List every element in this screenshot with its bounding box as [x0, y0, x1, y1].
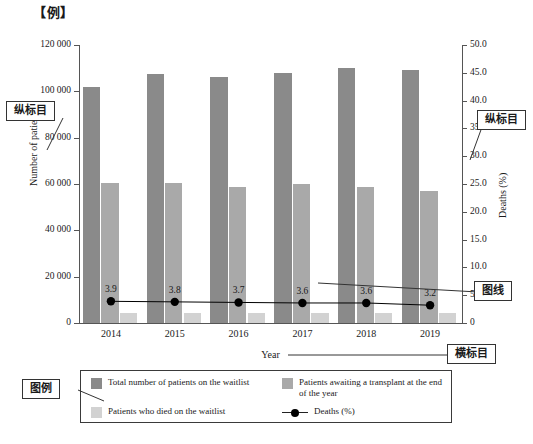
- x-axis-tick-label: 2015: [143, 328, 207, 339]
- legend-item-total: Total number of patients on the waitlist: [91, 377, 282, 399]
- annotation-y-axis-left: 纵标目: [6, 101, 55, 121]
- deaths-line-series: [79, 45, 462, 323]
- y-axis-left-tick-label: 120 000: [40, 40, 71, 50]
- tick-mark: [462, 73, 467, 74]
- line-data-label: 3.7: [233, 285, 245, 295]
- y-axis-right-tick-label: 50.0: [470, 40, 487, 50]
- y-axis-left-tick-label: 20 000: [45, 272, 71, 282]
- legend-row: Patients who died on the waitlist Deaths…: [91, 406, 451, 418]
- y-axis-right-tick-label: 45.0: [470, 68, 487, 78]
- line-data-label: 3.6: [296, 286, 308, 296]
- legend-label: Total number of patients on the waitlist: [108, 377, 249, 388]
- y-axis-left-tick-label: 60 000: [45, 179, 71, 189]
- legend-item-deaths-pct: Deaths (%): [282, 406, 451, 418]
- tick-mark: [462, 323, 467, 324]
- x-axis-tick-label: 2018: [334, 328, 398, 339]
- y-axis-right-tick-label: 30.0: [470, 151, 487, 161]
- tick-mark: [462, 295, 467, 296]
- x-axis-title: Year: [79, 349, 462, 360]
- y-axis-right-tick-label: 20.0: [470, 207, 487, 217]
- legend: Total number of patients on the waitlist…: [80, 370, 452, 423]
- tick-mark: [462, 267, 467, 268]
- line-marker: [298, 299, 306, 307]
- chart-figure: 【例】 Number of patients Deaths (%) 020 00…: [0, 0, 533, 444]
- legend-label: Patients awaiting a transplant at the en…: [299, 377, 451, 399]
- y-axis-left-tick-label: 80 000: [45, 133, 71, 143]
- line-data-label: 3.6: [360, 286, 372, 296]
- annotation-x-axis: 横标目: [447, 344, 496, 364]
- line-data-label: 3.8: [169, 285, 181, 295]
- tick-mark: [462, 184, 467, 185]
- line-marker: [426, 301, 434, 309]
- tick-mark: [462, 101, 467, 102]
- x-axis-tick-label: 2014: [79, 328, 143, 339]
- x-axis-tick-labels: 201420152016201720182019: [79, 328, 462, 339]
- tick-mark: [462, 156, 467, 157]
- legend-item-died: Patients who died on the waitlist: [91, 406, 282, 418]
- legend-label: Deaths (%): [314, 406, 355, 417]
- tick-mark: [462, 212, 467, 213]
- y-axis-right-tick-label: 15.0: [470, 235, 487, 245]
- annotation-legend: 图例: [22, 379, 60, 399]
- line-marker: [234, 298, 242, 306]
- line-marker: [107, 297, 115, 305]
- page-title: 【例】: [33, 2, 74, 21]
- legend-swatch-icon: [91, 378, 102, 389]
- y-axis-right-tick-label: 25.0: [470, 179, 487, 189]
- annotation-line-series: 图线: [474, 281, 512, 301]
- line-path: [111, 301, 430, 305]
- annotation-y-axis-right: 纵标目: [477, 110, 526, 130]
- legend-label: Patients who died on the waitlist: [108, 406, 225, 417]
- x-axis-tick-label: 2019: [398, 328, 462, 339]
- x-axis-line: [79, 323, 462, 324]
- legend-swatch-icon: [91, 407, 102, 418]
- x-axis-tick-label: 2017: [270, 328, 334, 339]
- y-axis-right-title: Deaths (%): [497, 173, 508, 218]
- tick-mark: [74, 323, 79, 324]
- y-axis-left-tick-label: 100 000: [40, 87, 71, 97]
- tick-mark: [462, 240, 467, 241]
- tick-mark: [462, 45, 467, 46]
- y-axis-left-tick-label: 40 000: [45, 226, 71, 236]
- y-axis-right-tick-label: 0: [470, 318, 475, 328]
- y-axis-right-tick-label: 10.0: [470, 263, 487, 273]
- line-data-label: 3.9: [105, 284, 117, 294]
- plot-area: 020 00040 00060 00080 000100 000120 000 …: [79, 45, 462, 323]
- x-axis-tick-label: 2016: [207, 328, 271, 339]
- legend-line-marker-icon: [282, 407, 308, 418]
- legend-item-awaiting: Patients awaiting a transplant at the en…: [282, 377, 451, 399]
- line-marker: [171, 298, 179, 306]
- tick-mark: [462, 128, 467, 129]
- line-data-label: 3.2: [424, 288, 436, 298]
- line-marker: [362, 299, 370, 307]
- y-axis-right-tick-label: 40.0: [470, 96, 487, 106]
- y-axis-left-tick-label: 0: [66, 318, 71, 328]
- legend-swatch-icon: [282, 378, 293, 389]
- legend-row: Total number of patients on the waitlist…: [91, 377, 451, 399]
